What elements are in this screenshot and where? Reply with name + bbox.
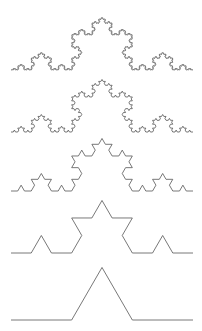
koch-curve-stage-4 (11, 79, 193, 132)
koch-curve-figure: Koch curve construction stages Five stac… (0, 0, 202, 331)
koch-curve-canvas: Koch curve construction stages Five stac… (0, 0, 202, 331)
koch-curve-stage-1 (11, 267, 193, 320)
koch-curve-stage-3 (11, 138, 193, 191)
koch-curve-stage-5 (11, 17, 193, 70)
koch-curve-stage-2 (11, 200, 193, 253)
koch-curve-group (11, 17, 193, 320)
